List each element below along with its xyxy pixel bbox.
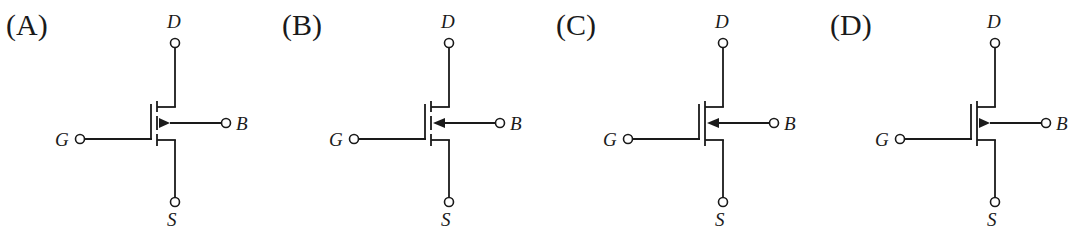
gate-label: G bbox=[875, 129, 889, 150]
source-terminal-circle bbox=[445, 198, 454, 207]
gate-terminal-circle bbox=[350, 135, 359, 144]
source-label: S bbox=[167, 209, 177, 230]
body-label: B bbox=[236, 113, 248, 134]
gate-label: G bbox=[329, 129, 343, 150]
gate-terminal-circle bbox=[896, 135, 905, 144]
arrow-outward-icon bbox=[979, 118, 990, 128]
schematic-canvas: D S G B D S G B bbox=[0, 0, 1077, 234]
mosfet-symbol-b: D S G B bbox=[329, 11, 522, 230]
source-label: S bbox=[441, 209, 451, 230]
drain-terminal-circle bbox=[719, 39, 728, 48]
mosfet-options-figure: (A) (B) (C) (D) bbox=[0, 0, 1077, 234]
drain-terminal-circle bbox=[991, 39, 1000, 48]
body-terminal-circle bbox=[496, 119, 505, 128]
gate-terminal-circle bbox=[624, 135, 633, 144]
body-label: B bbox=[784, 113, 796, 134]
body-terminal-circle bbox=[770, 119, 779, 128]
source-label: S bbox=[715, 209, 725, 230]
drain-label: D bbox=[166, 11, 181, 32]
drain-terminal-circle bbox=[171, 39, 180, 48]
body-terminal-circle bbox=[1042, 119, 1051, 128]
mosfet-symbol-d: D S G B bbox=[875, 11, 1068, 230]
gate-terminal-circle bbox=[76, 135, 85, 144]
mosfet-symbol-c: D S G B bbox=[603, 11, 796, 230]
gate-label: G bbox=[55, 129, 69, 150]
source-terminal-circle bbox=[991, 198, 1000, 207]
body-label: B bbox=[510, 113, 522, 134]
drain-label: D bbox=[714, 11, 729, 32]
source-label: S bbox=[987, 209, 997, 230]
arrow-inward-icon bbox=[433, 118, 445, 128]
drain-terminal-circle bbox=[445, 39, 454, 48]
drain-label: D bbox=[440, 11, 455, 32]
gate-label: G bbox=[603, 129, 617, 150]
source-terminal-circle bbox=[719, 198, 728, 207]
mosfet-symbol-a: D S G B bbox=[55, 11, 248, 230]
arrow-outward-icon bbox=[159, 118, 170, 128]
arrow-inward-icon bbox=[707, 118, 719, 128]
source-terminal-circle bbox=[171, 198, 180, 207]
body-label: B bbox=[1056, 113, 1068, 134]
body-terminal-circle bbox=[222, 119, 231, 128]
drain-label: D bbox=[986, 11, 1001, 32]
